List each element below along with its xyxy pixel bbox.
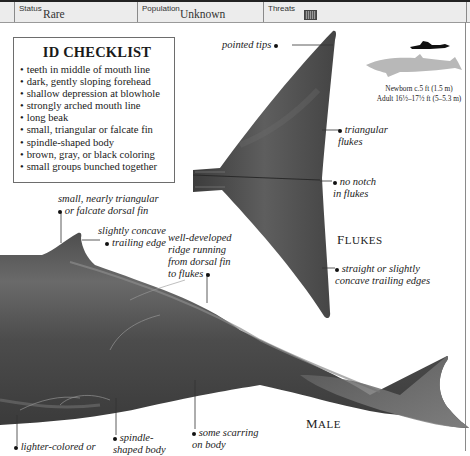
note-spindle-body: spindle- shaped body (113, 432, 166, 456)
whale-silhouette-icon (366, 54, 462, 77)
note-ridge: well-developed ridge running from dorsal… (168, 232, 232, 280)
id-checklist: ID CHECKLIST teeth in middle of mouth li… (13, 37, 175, 183)
checklist-item: small groups bunched together (20, 161, 174, 173)
checklist-item: dark, gently sloping forehead (20, 76, 174, 88)
bullet-dot (206, 273, 210, 277)
checklist-item: small, triangular or falcate fin (20, 124, 174, 136)
checklist-item: spindle-shaped body (20, 137, 174, 149)
note-dorsal-fin: small, nearly triangular or falcate dors… (58, 193, 159, 217)
bullet-dot (105, 242, 109, 246)
checklist-item: brown, gray, or black coloring (20, 149, 174, 161)
note-lighter-colored: lighter-colored or (14, 441, 96, 453)
checklist-item: long beak (20, 112, 174, 124)
swimmer-silhouette-icon (410, 41, 450, 49)
bullet-dot (192, 432, 196, 436)
male-caption: MALE (306, 416, 341, 432)
size-comparison: Newborn c.5 ft (1.5 m) Adult 16½–17½ ft … (370, 84, 468, 104)
checklist-item: strongly arched mouth line (20, 100, 174, 112)
note-trailing-edges: straight or slightly concave trailing ed… (335, 263, 430, 287)
bullet-dot (113, 437, 117, 441)
note-scarring: some scarring on body (192, 427, 258, 451)
bullet-dot (58, 210, 62, 214)
note-no-notch: no notch in flukes (333, 176, 376, 200)
bullet-dot (274, 44, 278, 48)
checklist-item: teeth in middle of mouth line (20, 64, 174, 76)
flukes-caption: FLUKES (337, 232, 383, 248)
checklist-title: ID CHECKLIST (20, 44, 174, 61)
note-concave-edge: slightly concave trailing edge (98, 225, 166, 249)
checklist-item: shallow depression at blowhole (20, 88, 174, 100)
checklist-items: teeth in middle of mouth line dark, gent… (20, 64, 174, 173)
note-triangular-flukes: triangular flukes (338, 124, 388, 148)
bullet-dot (333, 181, 337, 185)
adult-size: Adult 16½–17½ ft (5–5.3 m) (370, 94, 468, 104)
newborn-size: Newborn c.5 ft (1.5 m) (370, 84, 468, 94)
note-pointed-tips: pointed tips (222, 39, 278, 51)
bullet-dot (14, 446, 18, 450)
bullet-dot (335, 268, 339, 272)
bullet-dot (338, 129, 342, 133)
